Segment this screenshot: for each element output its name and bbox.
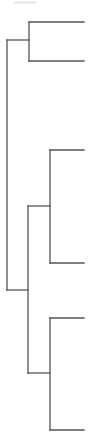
dendrogram — [0, 0, 92, 447]
